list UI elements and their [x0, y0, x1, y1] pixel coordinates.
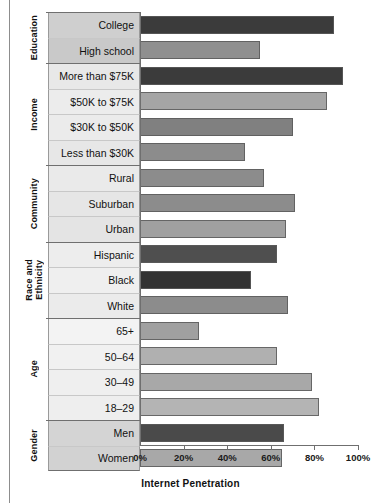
category-label: $30K to $50K [48, 114, 140, 140]
bar-track [140, 216, 381, 242]
bar-track [140, 114, 381, 140]
bar-track [140, 369, 381, 395]
x-tick-label: 100% [346, 452, 370, 463]
group-divider [46, 420, 141, 421]
category-label: Hispanic [48, 242, 140, 268]
chart-row: Rural [48, 165, 381, 191]
bar-track [140, 165, 381, 191]
bar [140, 41, 260, 59]
category-label: 65+ [48, 318, 140, 344]
bar-track [140, 395, 381, 421]
category-label: Men [48, 420, 140, 446]
x-tick-mark [227, 445, 228, 450]
bar-track [140, 191, 381, 217]
category-label: Less than $30K [48, 140, 140, 166]
bar [140, 118, 293, 136]
bar [140, 271, 251, 289]
bar-track [140, 344, 381, 370]
chart-row: 30–49 [48, 369, 381, 395]
chart-row: Men [48, 420, 381, 446]
bar [140, 143, 245, 161]
x-axis-line [140, 445, 358, 446]
bar-track [140, 89, 381, 115]
category-label: High school [48, 38, 140, 64]
chart-row: $50K to $75K [48, 89, 381, 115]
group-label-text: Income [29, 98, 39, 131]
group-divider [46, 165, 141, 166]
bar-track [140, 420, 381, 446]
bar [140, 398, 319, 416]
bar-track [140, 38, 381, 64]
horizontal-bar-chart: CollegeHigh schoolMore than $75K$50K to … [0, 0, 381, 503]
bar-track [140, 12, 381, 38]
category-label: White [48, 293, 140, 319]
category-label: $50K to $75K [48, 89, 140, 115]
group-divider [46, 242, 141, 243]
chart-row: Suburban [48, 191, 381, 217]
x-tick-label: 0% [133, 452, 147, 463]
chart-row: White [48, 293, 381, 319]
category-label: 18–29 [48, 395, 140, 421]
category-label: Women [48, 446, 140, 472]
group-divider [46, 12, 141, 13]
group-label-4: Race andEthnicity [22, 242, 46, 319]
bar [140, 424, 284, 442]
group-label-2: Income [22, 63, 46, 165]
bar-track [140, 318, 381, 344]
x-tick-label: 20% [174, 452, 193, 463]
chart-row: $30K to $50K [48, 114, 381, 140]
category-label: Black [48, 267, 140, 293]
x-tick-label: 60% [261, 452, 280, 463]
group-label-text: Education [29, 15, 39, 60]
x-tick-mark [314, 445, 315, 450]
x-axis-title: Internet Penetration [0, 478, 381, 489]
chart-row: Hispanic [48, 242, 381, 268]
group-divider [46, 318, 141, 319]
chart-row: More than $75K [48, 63, 381, 89]
category-label: Rural [48, 165, 140, 191]
group-label-6: Gender [22, 420, 46, 471]
group-label-3: Community [22, 165, 46, 242]
bar [140, 92, 327, 110]
group-label-5: Age [22, 318, 46, 420]
chart-row: Black [48, 267, 381, 293]
bar-track [140, 63, 381, 89]
category-label: 50–64 [48, 344, 140, 370]
chart-row: 65+ [48, 318, 381, 344]
bar [140, 194, 295, 212]
chart-row: High school [48, 38, 381, 64]
category-label: College [48, 12, 140, 38]
bar [140, 16, 334, 34]
bar [140, 373, 312, 391]
bar-track [140, 242, 381, 268]
bar [140, 67, 343, 85]
group-label-text: Race andEthnicity [24, 259, 44, 301]
bar [140, 347, 277, 365]
chart-row: Women [48, 446, 381, 472]
category-label: Urban [48, 216, 140, 242]
group-label-text: Community [29, 178, 39, 229]
group-label-text: Gender [29, 429, 39, 462]
group-label-1: Education [22, 12, 46, 63]
bar [140, 169, 264, 187]
x-tick-mark [184, 445, 185, 450]
bar-track [140, 140, 381, 166]
group-label-text: Age [29, 360, 39, 378]
chart-row: Urban [48, 216, 381, 242]
bar [140, 322, 199, 340]
bar [140, 245, 277, 263]
chart-row: 50–64 [48, 344, 381, 370]
bar-track [140, 267, 381, 293]
x-tick-mark [358, 445, 359, 450]
category-label: Suburban [48, 191, 140, 217]
y-axis-line [140, 12, 141, 445]
group-divider [46, 63, 141, 64]
bar-track [140, 293, 381, 319]
category-label: More than $75K [48, 63, 140, 89]
chart-row: Less than $30K [48, 140, 381, 166]
bar [140, 220, 286, 238]
x-tick-mark [271, 445, 272, 450]
x-tick-label: 40% [218, 452, 237, 463]
x-tick-label: 80% [305, 452, 324, 463]
bar [140, 296, 288, 314]
